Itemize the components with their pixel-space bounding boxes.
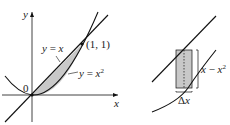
parabola-label-exp: 2	[101, 67, 105, 75]
height-bracket	[196, 50, 198, 88]
right-panel: x − x2 Δx	[152, 16, 227, 112]
width-bracket	[176, 91, 192, 92]
y-axis-arrow-icon	[30, 12, 34, 17]
origin-point	[30, 93, 33, 96]
width-label-x: x	[184, 94, 190, 106]
x-axis-label: x	[113, 97, 119, 109]
intersection-label: (1, 1)	[86, 38, 110, 51]
line-label-leader	[56, 56, 60, 62]
parabola-label-eq: =	[84, 67, 96, 79]
intersection-point	[80, 42, 83, 45]
origin-label: 0	[23, 82, 29, 94]
width-label-delta: Δ	[178, 94, 185, 106]
line-equation-label: y = x	[41, 42, 64, 54]
height-label-op: −	[206, 63, 218, 75]
width-label: Δx	[178, 94, 190, 106]
height-label: x − x2	[200, 63, 227, 75]
y-axis-label: y	[22, 8, 28, 20]
parabola-label-leader	[68, 72, 78, 74]
area-between-curves-diagram: y x 0 (1, 1) y = x y = x2 x − x2 Δx	[0, 0, 230, 125]
line-label-rhs: x	[58, 42, 64, 54]
height-label-exp: 2	[223, 63, 227, 71]
line-label-eq: =	[47, 42, 59, 54]
left-panel: y x 0 (1, 1) y = x y = x2	[2, 8, 119, 122]
parabola-equation-label: y = x2	[78, 67, 105, 79]
